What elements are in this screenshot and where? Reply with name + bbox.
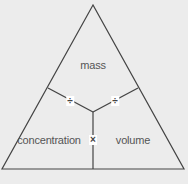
label-concentration: concentration <box>17 134 80 146</box>
multiply-operator: × <box>89 135 97 145</box>
label-volume: volume <box>116 134 150 146</box>
label-mass: mass <box>80 59 105 71</box>
formula-triangle <box>0 0 188 184</box>
divide-operator-right: ÷ <box>111 96 119 106</box>
divide-operator-left: ÷ <box>66 96 74 106</box>
